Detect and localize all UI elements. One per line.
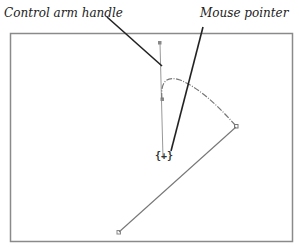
mouse-pointer-icon: {+} [155, 150, 173, 161]
canvas-border [11, 34, 293, 242]
control-arm-handle[interactable] [158, 41, 162, 45]
drawing-canvas[interactable] [0, 0, 299, 247]
